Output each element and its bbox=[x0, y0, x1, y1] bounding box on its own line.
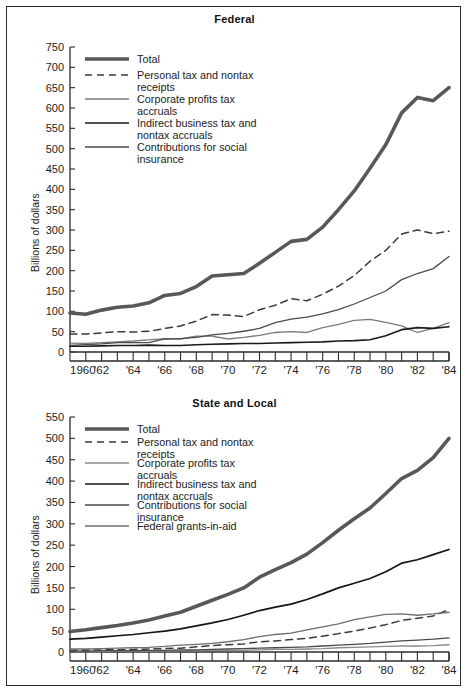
y-tick-label: 150 bbox=[46, 285, 64, 297]
y-tick-label: 600 bbox=[46, 102, 64, 114]
legend-item: Total bbox=[85, 53, 160, 65]
x-tick-label: '64 bbox=[126, 664, 142, 676]
series-line bbox=[70, 638, 449, 651]
y-tick-label: 50 bbox=[52, 625, 64, 637]
legend-item: Total bbox=[85, 423, 160, 435]
y-tick-label: 350 bbox=[46, 496, 64, 508]
x-tick-label: '72 bbox=[252, 664, 267, 676]
legend-label: Personal tax and nontax bbox=[137, 436, 254, 448]
series-line bbox=[70, 88, 449, 315]
x-tick-label: '78 bbox=[347, 664, 362, 676]
series-line bbox=[70, 327, 449, 347]
legend-label: Total bbox=[137, 423, 160, 435]
series-line bbox=[70, 438, 449, 631]
x-tick-label: '84 bbox=[442, 364, 458, 376]
x-tick-label: '70 bbox=[220, 664, 235, 676]
legend-label-continued: receipts bbox=[137, 81, 175, 93]
y-tick-label: 250 bbox=[46, 244, 64, 256]
x-tick-label: '70 bbox=[220, 364, 235, 376]
legend-label: Indirect business tax and bbox=[137, 478, 256, 490]
x-tick-label: '84 bbox=[442, 664, 458, 676]
legend-item: Corporate profits taxaccruals bbox=[85, 93, 235, 117]
x-tick-label: '66 bbox=[157, 664, 172, 676]
x-tick-label: '80 bbox=[378, 364, 393, 376]
chart-panel-federal: Federal Billions of dollars 050100150200… bbox=[7, 7, 462, 389]
y-tick-label: 350 bbox=[46, 204, 64, 216]
x-tick-label: '74 bbox=[284, 364, 300, 376]
figure-frame: Federal Billions of dollars 050100150200… bbox=[6, 6, 461, 686]
y-tick-label: 550 bbox=[46, 411, 64, 423]
y-tick-label: 100 bbox=[46, 305, 64, 317]
legend-label: Contributions for social bbox=[137, 141, 247, 153]
y-tick-label: 300 bbox=[46, 518, 64, 530]
y-tick-label: 500 bbox=[46, 143, 64, 155]
y-tick-label: 450 bbox=[46, 454, 64, 466]
y-tick-label: 650 bbox=[46, 82, 64, 94]
legend-label: Indirect business tax and bbox=[137, 117, 256, 129]
y-tick-label: 400 bbox=[46, 183, 64, 195]
legend-label: Contributions for social bbox=[137, 499, 247, 511]
y-tick-label: 750 bbox=[46, 41, 64, 53]
x-tick-label: '76 bbox=[315, 664, 330, 676]
y-tick-label: 400 bbox=[46, 475, 64, 487]
series-line bbox=[70, 230, 449, 334]
x-tick-label: '74 bbox=[284, 664, 300, 676]
y-tick-label: 50 bbox=[52, 326, 64, 338]
y-tick-label: 550 bbox=[46, 122, 64, 134]
legend-label-continued: insurance bbox=[137, 153, 184, 165]
legend-label-continued: accruals bbox=[137, 105, 178, 117]
series-line bbox=[70, 256, 449, 345]
x-tick-label: 1960 bbox=[70, 664, 96, 676]
series-line bbox=[70, 609, 449, 650]
series-line bbox=[70, 612, 449, 649]
y-tick-label: 450 bbox=[46, 163, 64, 175]
x-tick-label: '64 bbox=[126, 364, 142, 376]
y-tick-label: 100 bbox=[46, 603, 64, 615]
legend-label: Federal grants-in-aid bbox=[137, 520, 237, 532]
legend-item: Contributions for socialinsurance bbox=[85, 141, 247, 165]
legend-item: Federal grants-in-aid bbox=[85, 520, 237, 532]
y-tick-label: 250 bbox=[46, 539, 64, 551]
x-tick-label: '78 bbox=[347, 364, 362, 376]
y-tick-label: 300 bbox=[46, 224, 64, 236]
plot-area-federal: 0501001502002503003504004505005506006507… bbox=[7, 7, 462, 389]
x-tick-label: '66 bbox=[157, 364, 172, 376]
y-tick-label: 200 bbox=[46, 265, 64, 277]
x-tick-label: '68 bbox=[189, 664, 204, 676]
x-tick-label: '72 bbox=[252, 364, 267, 376]
y-tick-label: 0 bbox=[58, 346, 64, 358]
x-tick-label: '68 bbox=[189, 364, 204, 376]
legend-label: Personal tax and nontax bbox=[137, 69, 254, 81]
plot-area-state-local: 0501001502002503003504004505005501960'62… bbox=[7, 389, 462, 685]
y-tick-label: 0 bbox=[58, 646, 64, 658]
chart-panel-state-local: State and Local Billions of dollars 0501… bbox=[7, 389, 462, 685]
legend-label: Corporate profits tax bbox=[137, 457, 235, 469]
x-tick-label: 1960 bbox=[70, 364, 96, 376]
legend-item: Indirect business tax andnontax accruals bbox=[85, 117, 256, 141]
x-tick-label: '82 bbox=[410, 664, 425, 676]
x-tick-label: '82 bbox=[410, 364, 425, 376]
legend-item: Personal tax and nontaxreceipts bbox=[85, 69, 254, 93]
legend-label: Corporate profits tax bbox=[137, 93, 235, 105]
x-tick-label: '76 bbox=[315, 364, 330, 376]
legend-label-continued: nontax accruals bbox=[137, 129, 213, 141]
series-line bbox=[70, 319, 449, 343]
y-tick-label: 700 bbox=[46, 61, 64, 73]
y-tick-label: 150 bbox=[46, 582, 64, 594]
x-tick-label: '62 bbox=[94, 664, 109, 676]
y-tick-label: 500 bbox=[46, 432, 64, 444]
y-tick-label: 200 bbox=[46, 561, 64, 573]
legend-label: Total bbox=[137, 53, 160, 65]
x-tick-label: '80 bbox=[378, 664, 393, 676]
x-tick-label: '62 bbox=[94, 364, 109, 376]
